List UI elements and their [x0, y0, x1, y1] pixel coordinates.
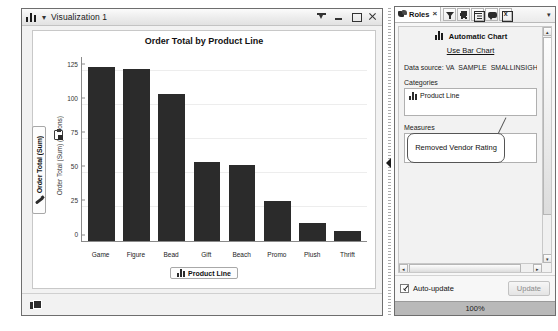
toolbar-overflow-icon[interactable]: ▾	[543, 7, 555, 22]
roles-body: Automatic Chart Use Bar Chart Data sourc…	[395, 23, 555, 315]
horizontal-scroll-thumb[interactable]	[409, 264, 521, 273]
x-axis-tick-label: Figure	[118, 251, 153, 258]
x-axis-role-chip-label: Product Line	[188, 270, 231, 277]
bar[interactable]	[264, 201, 291, 241]
clipboard-icon[interactable]	[54, 130, 63, 140]
scroll-up-icon[interactable]: ▴	[543, 27, 552, 36]
visualization-window: ▾ Visualization 1 Order Total by Product…	[21, 8, 383, 316]
callout-tail	[495, 115, 513, 135]
scroll-left-icon[interactable]: ◂	[399, 264, 408, 273]
progress-bar: 100%	[395, 301, 555, 315]
maximize-icon[interactable]	[350, 11, 361, 22]
data-source-text: Data source: VA_SAMPLE_SMALLINSIGH	[404, 64, 537, 71]
x-axis-role-chip[interactable]: Product Line	[170, 267, 238, 279]
pin-icon[interactable]	[316, 11, 327, 22]
export-icon[interactable]	[499, 8, 512, 21]
roles-content: Automatic Chart Use Bar Chart Data sourc…	[399, 27, 542, 263]
roles-footer: Auto-update Update	[395, 275, 555, 301]
measures-label: Measures	[404, 124, 537, 131]
y-axis-role-chip-label: Order Total (Sum)	[36, 136, 43, 193]
plot-area[interactable]: 0255075100125	[81, 57, 367, 242]
bar-column[interactable]	[119, 57, 154, 241]
y-axis-tick-label: 50	[71, 162, 82, 169]
scroll-right-icon[interactable]: ▸	[533, 264, 542, 273]
categories-label: Categories	[404, 79, 537, 86]
x-axis-role-chip-wrap: Product Line	[33, 267, 375, 279]
y-axis-label: Order Total (Sum) (millions)	[53, 91, 65, 221]
auto-update-label: Auto-update	[413, 284, 454, 293]
update-button[interactable]: Update	[508, 281, 550, 296]
bar[interactable]	[229, 165, 256, 241]
y-axis-role-chip[interactable]: Order Total (Sum)	[32, 126, 46, 214]
auto-update-checkbox[interactable]	[400, 284, 409, 293]
category-icon	[409, 92, 417, 100]
use-bar-chart-link[interactable]: Use Bar Chart	[404, 46, 537, 55]
plot-wrapper: Order Total (Sum) (millions) 02550751001…	[33, 51, 375, 288]
ranks-icon[interactable]	[457, 8, 470, 21]
bar[interactable]	[158, 94, 185, 241]
tab-close-icon[interactable]: ×	[431, 10, 437, 18]
bar[interactable]	[88, 67, 115, 241]
bar-chart-icon	[434, 32, 444, 41]
close-icon[interactable]	[367, 11, 378, 22]
x-axis-tick-label: Thrift	[330, 251, 365, 258]
x-axis-tick-label: Gift	[189, 251, 224, 258]
chart-title: Order Total by Product Line	[33, 36, 375, 46]
bar-column[interactable]	[225, 57, 260, 241]
bar-column[interactable]	[189, 57, 224, 241]
bar-chart-icon	[25, 12, 37, 23]
copy-pages-icon[interactable]	[30, 300, 40, 310]
roles-vertical-scrollbar[interactable]: ▴ ▾	[542, 27, 551, 263]
y-axis-tick-label: 75	[71, 128, 82, 135]
y-axis-tick-label: 125	[67, 60, 82, 67]
x-axis-tick-label: Game	[83, 251, 118, 258]
comments-icon[interactable]	[485, 8, 498, 21]
bar[interactable]	[299, 223, 326, 241]
vertical-scroll-thumb[interactable]	[543, 37, 552, 215]
visualization-titlebar[interactable]: ▾ Visualization 1	[22, 9, 382, 26]
callout-annotation: Removed Vendor Rating	[407, 133, 505, 163]
bar[interactable]	[334, 231, 361, 241]
y-axis-tick-label: 100	[67, 94, 82, 101]
tab-roles[interactable]: Roles ×	[395, 7, 441, 22]
titlebar-button-group	[316, 11, 378, 22]
bar[interactable]	[123, 69, 150, 241]
category-icon	[177, 269, 185, 277]
window-title: Visualization 1	[51, 12, 107, 22]
x-axis-tick-label: Beach	[224, 251, 259, 258]
filters-icon[interactable]	[443, 8, 456, 21]
bar-column[interactable]	[154, 57, 189, 241]
properties-icon[interactable]	[471, 8, 484, 21]
panel-splitter[interactable]	[385, 8, 394, 316]
y-axis-tick-label: 25	[71, 196, 82, 203]
roles-toolbar	[441, 7, 512, 22]
category-item-label: Product Line	[420, 92, 459, 99]
bar-column[interactable]	[330, 57, 365, 241]
bar-series[interactable]	[82, 57, 367, 241]
y-axis-tick-label: 0	[74, 231, 82, 238]
collapse-right-arrow-icon[interactable]	[386, 158, 391, 168]
bar[interactable]	[194, 162, 221, 241]
roles-tabbar: Roles × ▾	[395, 7, 555, 23]
categories-dropzone[interactable]: Product Line	[404, 88, 537, 116]
roles-panel: Roles × ▾ Automatic Chart Use Ba	[394, 6, 556, 316]
x-axis-tick-label: Plush	[295, 251, 330, 258]
bar-column[interactable]	[295, 57, 330, 241]
automatic-chart-label: Automatic Chart	[449, 32, 507, 41]
progress-label: 100%	[465, 304, 484, 313]
chart-panel[interactable]: Order Total by Product Line Order Total …	[32, 30, 376, 289]
roles-scroll-pane: Automatic Chart Use Bar Chart Data sourc…	[398, 26, 552, 273]
bar-column[interactable]	[84, 57, 119, 241]
visualization-footer	[22, 293, 382, 315]
scroll-down-icon[interactable]: ▾	[543, 254, 552, 263]
roles-icon	[398, 10, 407, 19]
roles-horizontal-scrollbar[interactable]: ◂ ▸	[399, 263, 542, 272]
minimize-icon[interactable]	[333, 11, 344, 22]
visualization-body: Order Total by Product Line Order Total …	[22, 26, 382, 315]
x-axis-tick-label: Promo	[259, 251, 294, 258]
automatic-chart-row: Automatic Chart	[404, 32, 537, 41]
bar-column[interactable]	[260, 57, 295, 241]
auto-update-group[interactable]: Auto-update	[400, 284, 454, 293]
x-axis-tick-label: Bead	[154, 251, 189, 258]
window-menu-caret-icon[interactable]: ▾	[39, 13, 48, 22]
